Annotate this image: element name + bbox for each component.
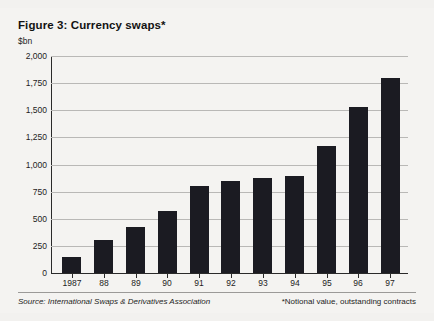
y-axis-unit-label: $bn <box>18 36 32 46</box>
y-tick-label: 0 <box>8 269 52 278</box>
bar-slot <box>56 56 88 273</box>
bar-slot <box>311 56 343 273</box>
source-note: Source: International Swaps & Derivative… <box>18 297 210 306</box>
y-tick-label-text: 2,000 <box>26 51 52 61</box>
bar-slot <box>151 56 183 273</box>
bar[interactable] <box>94 240 113 273</box>
y-tick-label-text: 1,750 <box>26 78 52 88</box>
figure-title: Figure 3: Currency swaps* <box>18 19 166 31</box>
y-tick-label: 1,250 <box>8 133 52 142</box>
y-tick-label: 2,000 <box>8 52 52 61</box>
y-tick-label: 1,000 <box>8 161 52 170</box>
y-tick-label-text: 0 <box>42 268 52 278</box>
x-tick-label: 95 <box>322 279 331 288</box>
footnote: *Notional value, outstanding contracts <box>282 297 416 306</box>
x-tick-label: 91 <box>194 279 203 288</box>
x-tick-label: 88 <box>99 279 108 288</box>
y-tick-label-text: 1,000 <box>26 160 52 170</box>
y-tick-label-text: 1,500 <box>26 105 52 115</box>
bar-slot <box>279 56 311 273</box>
y-tick-label-text: 1,250 <box>26 132 52 142</box>
y-tick-label-text: 750 <box>33 187 52 197</box>
bar[interactable] <box>62 257 81 273</box>
x-tick-label: 94 <box>290 279 299 288</box>
y-tick-label-text: 250 <box>33 241 52 251</box>
x-tick-label: 90 <box>162 279 171 288</box>
bar[interactable] <box>190 186 209 273</box>
bar[interactable] <box>253 178 272 273</box>
y-tick-label: 1,500 <box>8 106 52 115</box>
x-tick-label: 89 <box>131 279 140 288</box>
y-tick-label: 1,750 <box>8 79 52 88</box>
bar-slot <box>374 56 406 273</box>
bar-slot <box>120 56 152 273</box>
bar[interactable] <box>381 78 400 273</box>
bar[interactable] <box>285 176 304 273</box>
x-tick-label: 92 <box>226 279 235 288</box>
y-tick-label: 500 <box>8 215 52 224</box>
bar[interactable] <box>221 181 240 273</box>
bar-slot <box>215 56 247 273</box>
bar[interactable] <box>126 227 145 273</box>
x-tick-label: 1987 <box>63 279 82 288</box>
y-tick-label: 250 <box>8 242 52 251</box>
bars-group <box>52 56 408 273</box>
x-tick-label: 93 <box>258 279 267 288</box>
bar-slot <box>247 56 279 273</box>
bar-slot <box>342 56 374 273</box>
bar[interactable] <box>158 211 177 273</box>
y-tick-label: 750 <box>8 188 52 197</box>
x-tick-label: 97 <box>385 279 394 288</box>
y-tick-label-text: 500 <box>33 214 52 224</box>
footer-divider <box>18 292 416 293</box>
plot-area: 02505007501,0001,2501,5001,7502,000 <box>51 56 408 274</box>
x-tick-label: 96 <box>353 279 362 288</box>
bar[interactable] <box>349 107 368 273</box>
bar-slot <box>183 56 215 273</box>
bar[interactable] <box>317 146 336 273</box>
figure-container: Figure 3: Currency swaps* $bn 0250500750… <box>0 0 434 321</box>
bar-slot <box>88 56 120 273</box>
